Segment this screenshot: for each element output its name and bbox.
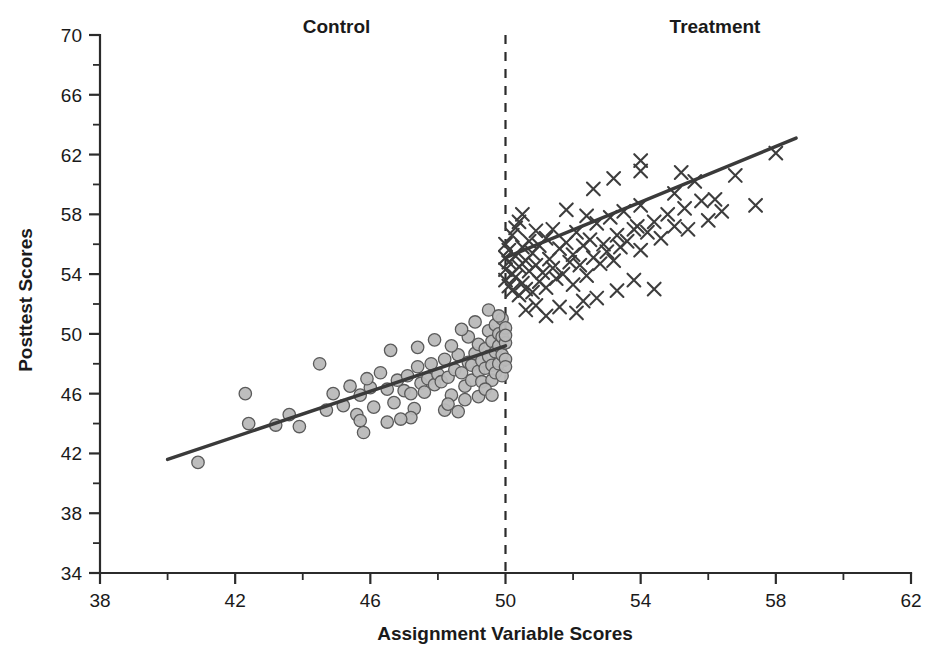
data-point-control (368, 401, 380, 413)
x-tick-label: 38 (89, 590, 110, 611)
data-point-control (428, 334, 440, 346)
control-label: Control (303, 16, 371, 37)
y-tick-label: 58 (61, 204, 82, 225)
y-tick-label: 46 (61, 384, 82, 405)
data-point-control (388, 396, 400, 408)
data-point-control (411, 341, 423, 353)
data-point-control (455, 323, 467, 335)
data-point-control (361, 373, 373, 385)
data-point-control (192, 456, 204, 468)
y-tick-label: 42 (61, 443, 82, 464)
data-point-control (344, 380, 356, 392)
data-point-control (381, 416, 393, 428)
y-tick-label: 34 (61, 563, 83, 584)
data-point-control (395, 413, 407, 425)
y-axis-title: Posttest Scores (15, 228, 36, 372)
y-tick-label: 50 (61, 324, 82, 345)
x-axis-title: Assignment Variable Scores (377, 623, 633, 644)
y-tick-label: 66 (61, 85, 82, 106)
data-point-control (354, 414, 366, 426)
y-tick-label: 38 (61, 503, 82, 524)
y-tick-label: 70 (61, 25, 82, 46)
data-point-control (239, 387, 251, 399)
data-point-control (499, 329, 511, 341)
x-tick-label: 50 (495, 590, 516, 611)
data-point-control (293, 420, 305, 432)
data-point-control (452, 405, 464, 417)
data-point-control (493, 310, 505, 322)
data-point-control (459, 393, 471, 405)
regression-discontinuity-figure: 3438424650545862667038424650545862 Contr… (0, 0, 945, 664)
x-tick-label: 54 (630, 590, 652, 611)
data-point-control (405, 387, 417, 399)
y-tick-label: 54 (61, 264, 83, 285)
data-point-control (313, 358, 325, 370)
data-point-control (411, 361, 423, 373)
data-point-control (486, 389, 498, 401)
data-point-control (242, 417, 254, 429)
data-point-control (384, 344, 396, 356)
data-point-control (499, 361, 511, 373)
data-point-control (445, 340, 457, 352)
data-point-control (469, 316, 481, 328)
x-tick-label: 46 (360, 590, 381, 611)
data-point-control (374, 367, 386, 379)
y-tick-label: 62 (61, 145, 82, 166)
x-tick-label: 62 (900, 590, 921, 611)
data-point-control (357, 426, 369, 438)
scatter-plot-canvas: 3438424650545862667038424650545862 Contr… (0, 0, 945, 664)
treatment-label: Treatment (670, 16, 761, 37)
data-point-control (327, 387, 339, 399)
x-tick-label: 58 (765, 590, 786, 611)
x-tick-label: 42 (225, 590, 246, 611)
